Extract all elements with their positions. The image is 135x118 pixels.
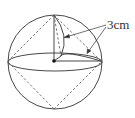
arrowhead-icon bbox=[64, 35, 70, 38]
center-point bbox=[52, 59, 56, 63]
meridian-arc bbox=[54, 15, 64, 56]
octahedron-edge bbox=[54, 15, 61, 56]
octahedron-edge bbox=[54, 62, 101, 109]
radius-label: 3cm bbox=[107, 18, 129, 31]
